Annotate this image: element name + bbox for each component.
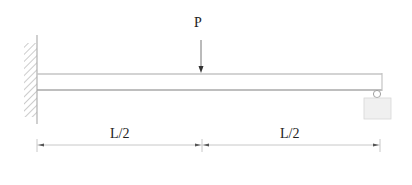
wall-hatch-icon bbox=[24, 43, 37, 117]
dim-arrow-mid-left-icon bbox=[195, 144, 201, 147]
roller-circle-icon bbox=[373, 90, 380, 97]
roller-base-block bbox=[364, 98, 391, 119]
dim-arrow-right-icon bbox=[373, 144, 379, 147]
point-load: P bbox=[194, 15, 204, 73]
arrow-down-icon bbox=[199, 66, 204, 73]
fixed-wall-support bbox=[24, 35, 37, 124]
load-label: P bbox=[194, 15, 202, 30]
dimension-line: L/2 L/2 bbox=[37, 126, 380, 152]
dim-arrow-left-icon bbox=[38, 144, 44, 147]
dimension-label-right: L/2 bbox=[280, 126, 299, 141]
dimension-label-left: L/2 bbox=[110, 126, 129, 141]
dim-arrow-mid-right-icon bbox=[203, 144, 209, 147]
beam-diagram: P L/2 L/2 bbox=[0, 0, 412, 185]
roller-support bbox=[364, 90, 391, 119]
beam bbox=[37, 73, 382, 91]
